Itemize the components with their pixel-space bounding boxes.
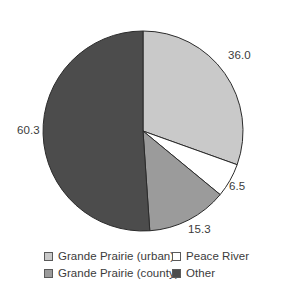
legend-row: Grande Prairie (urban) Peace River <box>44 249 294 264</box>
legend-swatch-peace-river <box>172 252 181 261</box>
slice-value-label-other: 60.3 <box>17 125 40 137</box>
legend-label-grande-prairie-urban: Grande Prairie (urban) <box>58 251 174 263</box>
legend-item-grande-prairie-county: Grande Prairie (county) <box>44 268 172 280</box>
pie-slice-group <box>43 31 243 231</box>
legend-item-grande-prairie-urban: Grande Prairie (urban) <box>44 251 172 263</box>
legend-row: Grande Prairie (county) Other <box>44 266 294 281</box>
legend-label-grande-prairie-county: Grande Prairie (county) <box>58 268 179 280</box>
legend-swatch-grande-prairie-county <box>44 269 53 278</box>
chart-legend: Grande Prairie (urban) Peace River Grand… <box>0 246 300 289</box>
pie-svg <box>0 0 300 248</box>
pie-slice <box>43 31 150 231</box>
slice-value-label-peace-river: 6.5 <box>229 181 245 193</box>
slice-value-label-county: 15.3 <box>188 224 211 236</box>
legend-label-other: Other <box>186 268 215 280</box>
legend-swatch-grande-prairie-urban <box>44 252 53 261</box>
pie-chart-figure: 36.0 6.5 15.3 60.3 Grande Prairie (urban… <box>0 0 300 289</box>
legend-label-peace-river: Peace River <box>186 251 249 263</box>
legend-item-other: Other <box>172 268 215 280</box>
legend-swatch-other <box>172 269 181 278</box>
slice-value-label-urban: 36.0 <box>228 50 251 62</box>
legend-item-peace-river: Peace River <box>172 251 249 263</box>
pie-plot-area: 36.0 6.5 15.3 60.3 <box>0 0 300 248</box>
